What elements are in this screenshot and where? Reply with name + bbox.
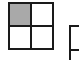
grid-cell-r1c0[interactable] [9,26,31,49]
partial-grid-divider [71,49,79,51]
grid-2x2 [8,2,54,50]
grid-cell-r0c0[interactable] [9,3,31,26]
partial-grid [69,25,79,60]
grid-cell-r1c1[interactable] [31,26,53,49]
grid-cell-r0c1[interactable] [31,3,53,26]
